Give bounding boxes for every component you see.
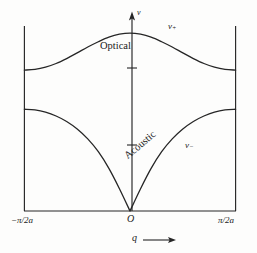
phonon-dispersion-figure: ν ν+ ν− Optical Acoustic O −π/2a π/2a q (0, 0, 257, 253)
x-axis-label: q (132, 233, 137, 243)
x-axis-min-tick-label: −π/2a (11, 216, 33, 225)
y-axis-label: ν (137, 9, 141, 17)
x-axis-max-tick-label: π/2a (218, 216, 234, 225)
optical-branch-label: Optical (100, 41, 131, 52)
nu-minus-label: ν− (185, 141, 193, 151)
origin-label: O (127, 214, 134, 224)
nu-plus-subscript: + (172, 24, 176, 31)
nu-plus-label: ν+ (168, 22, 176, 32)
nu-minus-subscript: − (189, 143, 193, 150)
x-axis-arrow-icon (143, 237, 176, 243)
optical-branch-curve (24, 33, 235, 70)
